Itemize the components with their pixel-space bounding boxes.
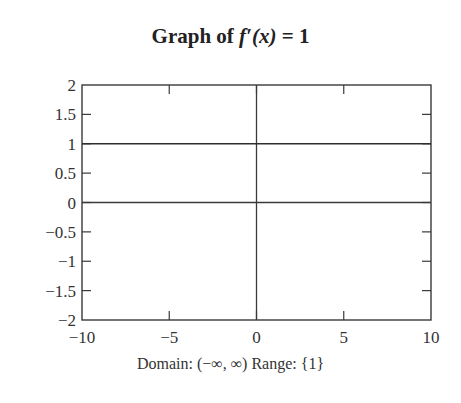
- y-tick-label: 1.5: [55, 105, 76, 124]
- y-tick-label: 2: [68, 76, 77, 95]
- plot-area: −10−5051021.510.50−0.5−1−1.5−2: [0, 0, 461, 403]
- y-tick-label: −1: [58, 252, 76, 271]
- y-tick-label: −2: [58, 311, 76, 330]
- x-tick-label: −10: [69, 328, 96, 347]
- x-tick-label: 0: [252, 328, 261, 347]
- y-tick-label: −0.5: [45, 223, 76, 242]
- y-tick-label: 0: [68, 194, 77, 213]
- x-tick-label: 5: [340, 328, 349, 347]
- y-tick-label: −1.5: [45, 282, 76, 301]
- x-tick-label: −5: [160, 328, 178, 347]
- y-tick-label: 0.5: [55, 164, 76, 183]
- x-tick-label: 10: [423, 328, 440, 347]
- y-tick-label: 1: [68, 135, 77, 154]
- domain-range-caption: Domain: (−∞, ∞) Range: {1}: [0, 355, 461, 373]
